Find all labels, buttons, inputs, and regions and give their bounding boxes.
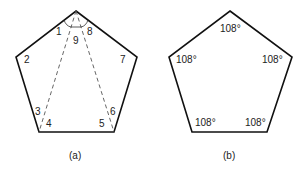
angle-label-6: 6 (110, 107, 116, 117)
angle-label-bottom-right: 108° (245, 118, 266, 128)
angle-label-right: 108° (262, 55, 283, 65)
angle-label-3: 3 (35, 107, 41, 117)
angle-label-9: 9 (73, 36, 79, 46)
caption-b: (b) (223, 150, 235, 161)
diagram-canvas (0, 0, 301, 177)
angle-label-8: 8 (87, 27, 93, 37)
angle-label-4: 4 (46, 119, 52, 129)
angle-label-5: 5 (99, 119, 105, 129)
angle-label-1: 1 (56, 27, 62, 37)
angle-label-bottom-left: 108° (195, 118, 216, 128)
angle-label-left: 108° (176, 55, 197, 65)
angle-label-7: 7 (120, 55, 126, 65)
angle-label-2: 2 (24, 55, 30, 65)
angle-label-top: 108° (220, 24, 241, 34)
angle-arc-1 (64, 20, 71, 27)
diagonal-right (76, 11, 114, 132)
caption-a: (a) (69, 150, 81, 161)
